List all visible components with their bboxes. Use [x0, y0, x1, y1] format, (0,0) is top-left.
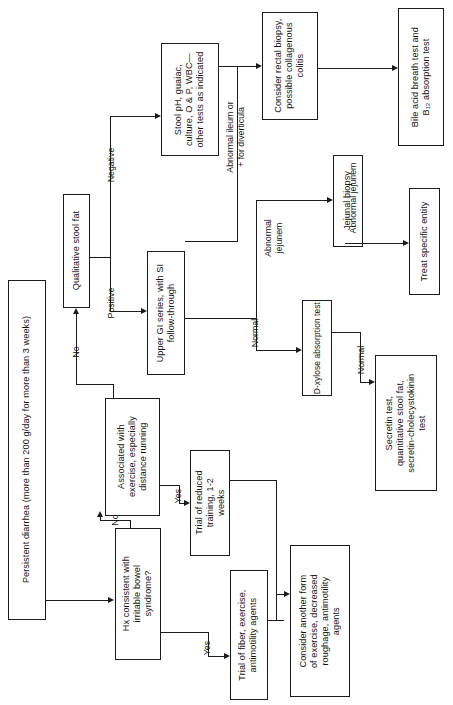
edge-arrowhead	[97, 511, 103, 517]
edge-ibs-no-up	[130, 520, 131, 529]
node-label: Hx consistent with irritable bowel syndr…	[121, 556, 154, 631]
node-rectal-biopsy: Consider rectal biopsy, possible collage…	[262, 12, 318, 120]
edge-arrowhead	[296, 347, 302, 353]
node-trial-reduced-training: Trial of reduced training, 1-2 weeks	[190, 450, 230, 556]
edge-stoolfat-negative	[110, 116, 155, 117]
edge-stoolfat-spine	[110, 116, 111, 258]
edge-label-exercise-no: No	[70, 342, 82, 362]
edge-training-to-consider-h1	[230, 480, 276, 481]
node-trial-fiber: Trial of fiber, exercise, antimotility a…	[230, 570, 268, 700]
node-stool-ph: Stool pH, guaiac, culture, O & P, WBC— o…	[161, 43, 219, 156]
edge-arrowhead	[108, 597, 114, 603]
edge-arrowhead	[284, 591, 290, 597]
edge-xylose-to-secretin	[360, 382, 369, 383]
node-secretin-test: Secretin test, quantitative stool fat, s…	[375, 355, 437, 491]
edge-arrowhead	[141, 308, 147, 314]
edge-label-exercise-yes: Yes	[172, 485, 184, 507]
node-bile-acid-test: Bile acid breath test and B₁₂ absorption…	[398, 8, 444, 146]
edge-fiber-riser	[276, 594, 277, 621]
edge-label-abnormal-ileum: Abnormal ileum or + for diverticula	[224, 106, 248, 168]
edge-exercise-no-up1	[113, 384, 114, 399]
node-label: Associated with exercise, especially dis…	[116, 417, 149, 498]
node-upper-gi-series: Upper GI series, with SI follow-through	[147, 251, 185, 375]
node-label: Stool pH, guaiac, culture, O & P, WBC— o…	[173, 52, 206, 148]
node-qualitative-stool-fat: Qualitative stool fat	[63, 194, 90, 308]
node-label: Trial of reduced training, 1-2 weeks	[193, 471, 226, 535]
node-label: Consider another form of exercise, decre…	[298, 574, 342, 668]
edge-ugi-stem	[185, 318, 257, 319]
edge-ugi-normal	[256, 350, 296, 351]
node-treat-specific-entity: Treat specific entity	[409, 188, 440, 295]
flowchart-canvas: Persistent diarrhea (more than 200 g/day…	[0, 0, 453, 705]
edge-arrowhead	[327, 197, 333, 203]
node-label: Persistent diarrhea (more than 200 g/day…	[21, 316, 32, 583]
node-label: Bile acid breath test and B₁₂ absorption…	[410, 27, 432, 127]
edge-label-abnormal-jejunem: Abnormal jejunem	[262, 216, 286, 260]
edge-diarrhea-to-ibs	[46, 600, 108, 601]
edge-training-to-consider-h2	[276, 594, 284, 595]
edge-label-jejunal-abnormal: Abnormal jejunem	[347, 170, 359, 226]
edge-ugi-abnormal-jejunem	[256, 200, 327, 201]
edge-arrowhead	[224, 653, 230, 659]
node-hx-ibs: Hx consistent with irritable bowel syndr…	[115, 528, 161, 660]
node-d-xylose-test: D-xylose absorption test	[302, 300, 332, 396]
edge-label-ibs-no: No	[109, 510, 121, 530]
edge-training-to-consider-v	[276, 480, 277, 594]
edge-arrowhead	[392, 65, 398, 71]
node-consider-another-form: Consider another form of exercise, decre…	[290, 545, 350, 697]
edge-label-xylose-normal: Normal	[354, 344, 368, 376]
edge-jejunal-to-treat	[345, 243, 403, 244]
edge-ibs-yes-h1	[161, 632, 208, 633]
node-label: Trial of fiber, exercise, antimotility a…	[238, 589, 260, 680]
edge-arrowhead	[184, 500, 190, 506]
node-persistent-diarrhea: Persistent diarrhea (more than 200 g/day…	[8, 280, 46, 620]
edge-arrowhead	[73, 308, 79, 314]
node-label: Qualitative stool fat	[71, 211, 82, 290]
edge-arrowhead	[155, 113, 161, 119]
edge-xylose-stem	[332, 332, 361, 333]
node-label: Secretin test, quantitative stool fat, s…	[384, 374, 428, 473]
edge-arrowhead	[256, 63, 262, 69]
node-label: Treat specific entity	[419, 201, 430, 281]
edge-arrowhead	[369, 379, 375, 385]
edge-ileum-h	[185, 241, 237, 242]
node-label: D-xylose absorption test	[312, 302, 322, 394]
edge-rectal-to-bileacid	[318, 68, 392, 69]
edge-label-positive: Positive	[104, 288, 118, 318]
edge-arrowhead	[403, 240, 409, 246]
edge-label-negative: Negative	[104, 150, 118, 180]
edge-exercise-no-h	[76, 384, 114, 385]
edge-label-ibs-yes: Yes	[201, 637, 213, 659]
node-label: Upper GI series, with SI follow-through	[155, 264, 177, 362]
edge-stoolfat-stem	[90, 257, 111, 258]
node-label: Consider rectal biopsy, possible collage…	[273, 19, 306, 113]
node-assoc-exercise: Associated with exercise, especially dis…	[105, 398, 160, 516]
